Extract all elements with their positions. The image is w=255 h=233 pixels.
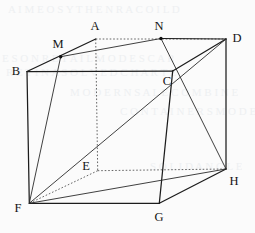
edge-AE [96, 39, 98, 171]
vertex-label-e: E [82, 160, 90, 173]
edge-GH [159, 169, 226, 203]
cube-figure: A I M E O S Y T H E N R A C O I L DE S O… [0, 0, 255, 233]
vertex-dot-m [59, 55, 62, 58]
edge-EH [98, 169, 226, 171]
vertex-label-h: H [229, 175, 238, 188]
edge-CD [173, 39, 226, 71]
vertex-label-a: A [90, 20, 99, 33]
vertex-dot-n [159, 37, 162, 40]
line-MN [61, 39, 161, 57]
edge-BF [27, 72, 29, 204]
vertex-label-b: B [12, 65, 20, 78]
edge-CG [159, 71, 172, 203]
cube-drawing [0, 0, 255, 233]
line-FH [29, 169, 226, 203]
edge-EF [29, 171, 97, 204]
vertex-label-f: F [15, 202, 22, 215]
vertex-label-g: G [154, 211, 163, 224]
line-ND [161, 39, 226, 40]
vertex-label-n: N [154, 20, 163, 33]
construction-lines-group [29, 39, 226, 204]
edge-BC [27, 71, 173, 72]
vertex-label-m: M [52, 38, 63, 51]
vertex-label-d: D [232, 32, 241, 45]
vertex-label-c: C [163, 75, 171, 88]
